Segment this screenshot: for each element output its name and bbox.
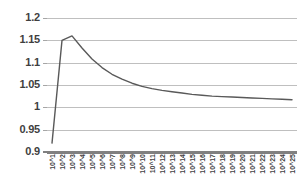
x-axis-tick-label-slot: 10^13 (167, 154, 177, 194)
x-axis-tick-label: 10^24 (279, 154, 286, 174)
x-axis-tick-label: 10^1 (49, 154, 56, 170)
x-axis-tick-label-slot: 10^17 (207, 154, 217, 194)
x-axis-tick-label: 10^3 (69, 154, 76, 170)
x-axis-tick-label-slot: 10^16 (197, 154, 207, 194)
x-axis-tick-label-slot: 10^20 (237, 154, 247, 194)
x-axis-tick-label: 10^6 (99, 154, 106, 170)
x-axis-labels: 10^110^210^310^410^510^610^710^810^910^1… (47, 154, 297, 195)
x-axis-tick-label-slot: 10^12 (157, 154, 167, 194)
x-axis-tick-label: 10^10 (139, 154, 146, 174)
x-axis-tick-label: 10^14 (179, 154, 186, 174)
x-axis-tick-label: 10^4 (79, 154, 86, 170)
line-chart: 1.21.151.11.0510.950.9 10^110^210^310^41… (0, 0, 305, 195)
y-axis-tick-label: 1.15 (19, 34, 40, 45)
x-axis-tick-label-slot: 10^23 (267, 154, 277, 194)
y-axis-tick-label: 0.9 (25, 146, 40, 157)
x-axis-tick-label: 10^18 (219, 154, 226, 174)
x-axis-tick-label: 10^20 (239, 154, 246, 174)
x-axis-tick-label: 10^15 (189, 154, 196, 174)
x-axis-tick-label-slot: 10^1 (47, 154, 57, 194)
x-axis-tick-label: 10^2 (59, 154, 66, 170)
x-axis-tick-label-slot: 10^15 (187, 154, 197, 194)
x-axis-tick-label-slot: 10^5 (87, 154, 97, 194)
x-axis-tick-label-slot: 10^22 (257, 154, 267, 194)
x-axis-tick-label-slot: 10^10 (137, 154, 147, 194)
x-axis-tick-label-slot: 10^24 (277, 154, 287, 194)
x-axis-tick-label-slot: 10^7 (107, 154, 117, 194)
x-axis-tick-label: 10^5 (89, 154, 96, 170)
y-axis-labels: 1.21.151.11.0510.950.9 (0, 0, 40, 195)
x-axis-tick-label-slot: 10^8 (117, 154, 127, 194)
x-axis-tick-label: 10^16 (199, 154, 206, 174)
y-axis-tick-label: 0.95 (19, 124, 40, 135)
x-axis-tick-label: 10^23 (269, 154, 276, 174)
x-axis-tick-label-slot: 10^21 (247, 154, 257, 194)
x-axis-tick-label: 10^12 (159, 154, 166, 174)
y-axis-tick-label: 1.05 (19, 79, 40, 90)
series-line-1 (47, 18, 297, 152)
x-axis-tick-label-slot: 10^14 (177, 154, 187, 194)
x-axis-tick-label: 10^22 (259, 154, 266, 174)
x-axis-tick-label: 10^8 (119, 154, 126, 170)
x-axis-tick-label: 10^9 (129, 154, 136, 170)
x-axis-tick-label-slot: 10^2 (57, 154, 67, 194)
x-axis-tick-label-slot: 10^11 (147, 154, 157, 194)
plot-area (47, 18, 297, 152)
x-axis-tick-label-slot: 10^19 (227, 154, 237, 194)
x-axis-tick-label-slot: 10^3 (67, 154, 77, 194)
x-axis-tick-label: 10^7 (109, 154, 116, 170)
x-axis-tick-label-slot: 10^25 (287, 154, 297, 194)
x-axis-tick-label: 10^17 (209, 154, 216, 174)
y-axis-tick-label: 1.1 (25, 57, 40, 68)
x-axis-tick-label-slot: 10^18 (217, 154, 227, 194)
x-axis-tick-label: 10^19 (229, 154, 236, 174)
x-axis-tick-label-slot: 10^6 (97, 154, 107, 194)
x-axis-tick-label: 10^25 (289, 154, 296, 174)
x-axis-tick-label: 10^11 (149, 154, 156, 173)
x-axis-tick-label: 10^13 (169, 154, 176, 174)
x-axis-tick-label-slot: 10^4 (77, 154, 87, 194)
x-axis-tick-label-slot: 10^9 (127, 154, 137, 194)
y-axis-tick-label: 1 (34, 101, 40, 112)
y-axis-tick-label: 1.2 (25, 12, 40, 23)
x-axis-tick-label: 10^21 (249, 154, 256, 174)
